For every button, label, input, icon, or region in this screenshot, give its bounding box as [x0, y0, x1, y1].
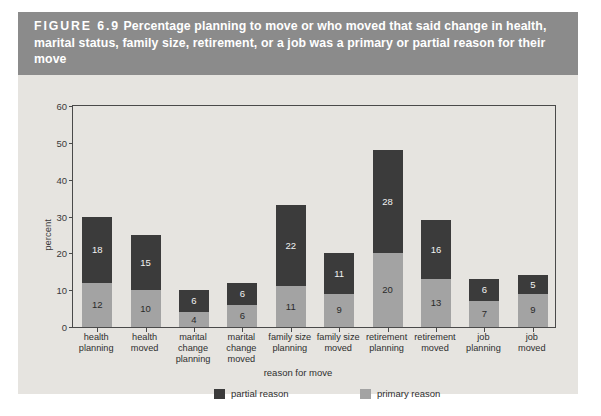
- bar-value-label: 28: [373, 196, 403, 207]
- bar-value-label: 22: [276, 240, 306, 251]
- bar-segment-primary[interactable]: 9: [324, 294, 354, 327]
- bar-segment-primary[interactable]: 12: [82, 283, 112, 327]
- bar-segment-partial[interactable]: 18: [82, 217, 112, 283]
- bar-stack[interactable]: 67: [469, 279, 499, 327]
- bar-value-label: 10: [131, 303, 161, 314]
- y-axis-tick-label: 30: [56, 211, 67, 222]
- bar-value-label: 11: [324, 268, 354, 279]
- bar-stack[interactable]: 119: [324, 253, 354, 327]
- y-axis-tick-mark: [69, 253, 73, 254]
- bar-segment-partial[interactable]: 6: [227, 283, 257, 305]
- figure-caption: FIGURE 6.9 Percentage planning to move o…: [34, 18, 564, 68]
- bar-value-label: 6: [227, 288, 257, 299]
- bar-segment-primary[interactable]: 4: [179, 312, 209, 327]
- y-axis-tick-label: 0: [62, 322, 67, 333]
- bar-segment-primary[interactable]: 9: [518, 294, 548, 327]
- bar-segment-partial[interactable]: 6: [179, 290, 209, 312]
- bar-segment-primary[interactable]: 20: [373, 253, 403, 327]
- y-axis-tick-label: 10: [56, 285, 67, 296]
- bar-stack[interactable]: 1613: [421, 220, 451, 327]
- y-axis-tick-label: 40: [56, 174, 67, 185]
- bar-value-label: 9: [324, 304, 354, 315]
- figure-panel: FIGURE 6.9 Percentage planning to move o…: [18, 12, 578, 394]
- bar-value-label: 15: [131, 257, 161, 268]
- legend-swatch: [360, 389, 371, 399]
- plot-frame: 1812151064662211119282016136759 01020304…: [72, 105, 556, 328]
- y-axis-tick-mark: [69, 143, 73, 144]
- x-axis-label: reason for move: [18, 367, 578, 378]
- y-axis-tick-mark: [69, 290, 73, 291]
- bar-segment-partial[interactable]: 15: [131, 235, 161, 290]
- bar-segment-partial[interactable]: 22: [276, 205, 306, 286]
- x-axis-category-label: jobmoved: [495, 332, 569, 354]
- bar-segment-partial[interactable]: 16: [421, 220, 451, 279]
- plot-area: percent 1812151064662211119282016136759 …: [18, 75, 578, 394]
- bar-segment-partial[interactable]: 6: [469, 279, 499, 301]
- bar-segment-primary[interactable]: 11: [276, 286, 306, 327]
- y-axis-label: percent: [42, 219, 53, 251]
- bar-segment-partial[interactable]: 11: [324, 253, 354, 294]
- y-axis-tick-mark: [69, 217, 73, 218]
- bar-value-label: 6: [469, 284, 499, 295]
- figure-header: FIGURE 6.9 Percentage planning to move o…: [18, 12, 578, 75]
- bar-segment-primary[interactable]: 10: [131, 290, 161, 327]
- bar-value-label: 9: [518, 304, 548, 315]
- bar-segment-primary[interactable]: 6: [227, 305, 257, 327]
- legend-swatch: [214, 389, 225, 399]
- bar-value-label: 5: [518, 279, 548, 290]
- legend-item[interactable]: partial reason: [214, 388, 289, 399]
- bar-stack[interactable]: 66: [227, 283, 257, 327]
- legend-item[interactable]: primary reason: [360, 388, 440, 399]
- bar-segment-primary[interactable]: 7: [469, 301, 499, 327]
- bar-stack[interactable]: 1510: [131, 235, 161, 327]
- bar-value-label: 11: [276, 301, 306, 312]
- bar-value-label: 13: [421, 297, 451, 308]
- bar-value-label: 18: [82, 244, 112, 255]
- bar-stack[interactable]: 2820: [373, 150, 403, 327]
- bar-stack[interactable]: 2211: [276, 205, 306, 327]
- y-axis-tick-mark: [69, 106, 73, 107]
- bar-value-label: 20: [373, 284, 403, 295]
- y-axis-tick-mark: [69, 180, 73, 181]
- y-axis-tick-mark: [69, 327, 73, 328]
- bar-stack[interactable]: 1812: [82, 217, 112, 327]
- bar-value-label: 16: [421, 244, 451, 255]
- y-axis-tick-label: 50: [56, 137, 67, 148]
- legend-label: partial reason: [231, 388, 289, 399]
- legend-label: primary reason: [377, 388, 440, 399]
- bar-segment-primary[interactable]: 13: [421, 279, 451, 327]
- figure-number: FIGURE 6.9: [34, 19, 120, 33]
- bar-value-label: 4: [179, 314, 209, 325]
- y-axis-tick-label: 20: [56, 248, 67, 259]
- y-axis-tick-label: 60: [56, 101, 67, 112]
- bar-value-label: 12: [82, 299, 112, 310]
- bar-stack[interactable]: 64: [179, 290, 209, 327]
- plot-inner: 1812151064662211119282016136759: [73, 106, 555, 327]
- bar-value-label: 7: [469, 308, 499, 319]
- bar-value-label: 6: [227, 310, 257, 321]
- chart-legend: partial reasonprimary reason: [18, 388, 578, 404]
- bar-stack[interactable]: 59: [518, 275, 548, 327]
- bar-value-label: 6: [179, 295, 209, 306]
- bar-segment-partial[interactable]: 28: [373, 150, 403, 253]
- bar-segment-partial[interactable]: 5: [518, 275, 548, 293]
